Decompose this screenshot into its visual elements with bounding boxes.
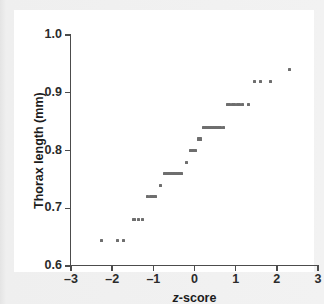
data-point bbox=[259, 80, 262, 83]
y-tick-3 bbox=[65, 92, 70, 93]
x-tick-5 bbox=[276, 266, 277, 271]
x-tick-label-4: 1 bbox=[216, 272, 256, 286]
data-point bbox=[241, 103, 244, 106]
x-tick-3 bbox=[194, 266, 195, 271]
plot-canvas: –3–2–10123 0.60.70.80.91.0 z-score Thora… bbox=[14, 10, 314, 272]
data-point bbox=[153, 195, 156, 198]
data-point bbox=[199, 137, 202, 140]
x-tick-6 bbox=[317, 266, 318, 271]
figure-background: –3–2–10123 0.60.70.80.91.0 z-score Thora… bbox=[0, 0, 324, 304]
data-point bbox=[159, 184, 162, 187]
y-tick-label-0: 0.6 bbox=[18, 258, 62, 272]
x-tick-label-6: 3 bbox=[298, 272, 324, 286]
x-tick-label-3: 0 bbox=[175, 272, 215, 286]
y-tick-4 bbox=[65, 34, 70, 35]
x-tick-label-2: –1 bbox=[133, 272, 173, 286]
data-point bbox=[116, 239, 119, 242]
x-tick-0 bbox=[70, 266, 71, 271]
data-point bbox=[194, 149, 197, 152]
x-tick-4 bbox=[235, 266, 236, 271]
data-point bbox=[269, 80, 272, 83]
x-axis-label-suffix: -score bbox=[179, 291, 217, 304]
data-points-layer bbox=[71, 35, 318, 266]
x-tick-label-0: –3 bbox=[51, 272, 91, 286]
data-point bbox=[222, 126, 225, 129]
data-point bbox=[180, 172, 183, 175]
data-point bbox=[185, 161, 188, 164]
data-point bbox=[253, 80, 256, 83]
y-tick-1 bbox=[65, 208, 70, 209]
data-point bbox=[132, 218, 135, 221]
y-tick-0 bbox=[65, 265, 70, 266]
data-point bbox=[122, 239, 125, 242]
y-tick-label-4: 1.0 bbox=[18, 27, 62, 41]
data-point bbox=[141, 218, 144, 221]
data-point bbox=[100, 239, 103, 242]
y-axis-label: Thorax length (mm) bbox=[32, 92, 46, 209]
data-point bbox=[288, 68, 291, 71]
y-tick-2 bbox=[65, 150, 70, 151]
x-tick-2 bbox=[153, 266, 154, 271]
x-tick-label-5: 2 bbox=[257, 272, 297, 286]
x-axis-label: z-score bbox=[71, 291, 318, 304]
data-point bbox=[137, 218, 140, 221]
x-tick-label-1: –2 bbox=[92, 272, 132, 286]
x-tick-1 bbox=[111, 266, 112, 271]
data-point bbox=[247, 103, 250, 106]
